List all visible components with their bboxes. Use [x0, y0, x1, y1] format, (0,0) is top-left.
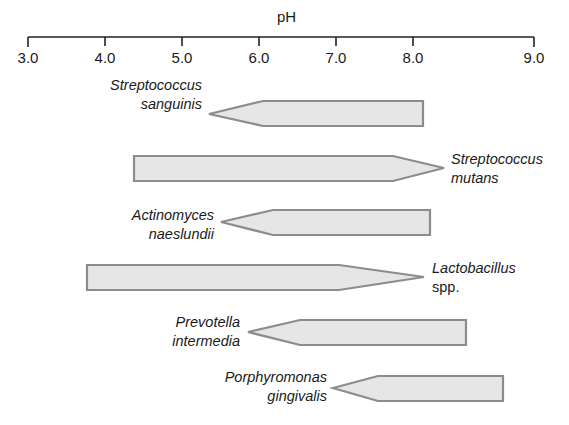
label-line1: Porphyromonas: [225, 368, 327, 387]
tick-label: 5.0: [162, 49, 202, 66]
label-streptococcus-mutans: Streptococcus mutans: [451, 150, 543, 188]
label-streptococcus-sanguinis: Streptococcus sanguinis: [110, 76, 202, 114]
arrow-streptococcus-mutans: [134, 156, 444, 181]
axis-title: pH: [0, 8, 569, 25]
label-lactobacillus: Lactobacillus spp.: [432, 259, 516, 297]
tick-label: 7.0: [316, 49, 356, 66]
arrow-actinomyces-naeslundii: [221, 210, 430, 235]
range-arrows: [87, 101, 503, 401]
tick-label: 4.0: [85, 49, 125, 66]
tick-label: 6.0: [239, 49, 279, 66]
label-actinomyces-naeslundii: Actinomyces naeslundii: [132, 206, 214, 244]
label-line1: Prevotella: [172, 313, 240, 332]
arrow-porphyromonas-gingivalis: [333, 376, 503, 401]
label-line2: intermedia: [172, 332, 240, 351]
label-porphyromonas-gingivalis: Porphyromonas gingivalis: [225, 368, 327, 406]
label-line2: spp.: [432, 278, 516, 297]
arrow-prevotella-intermedia: [248, 320, 466, 345]
label-line1: Lactobacillus: [432, 259, 516, 278]
label-line1: Streptococcus: [451, 150, 543, 169]
tick-label: 9.0: [514, 49, 554, 66]
label-line2: mutans: [451, 169, 543, 188]
label-line1: Actinomyces: [132, 206, 214, 225]
label-prevotella-intermedia: Prevotella intermedia: [172, 313, 240, 351]
label-line2: naeslundii: [132, 225, 214, 244]
label-line2: gingivalis: [225, 387, 327, 406]
arrow-streptococcus-sanguinis: [209, 101, 423, 126]
ph-axis: [28, 37, 534, 47]
label-line1: Streptococcus: [110, 76, 202, 95]
label-line2: sanguinis: [110, 95, 202, 114]
arrow-lactobacillus: [87, 265, 424, 290]
tick-label: 8.0: [393, 49, 433, 66]
tick-label: 3.0: [8, 49, 48, 66]
